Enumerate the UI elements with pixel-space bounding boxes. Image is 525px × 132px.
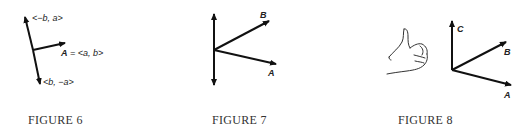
caption-figure-6: FIGURE 6	[28, 113, 83, 127]
figure-6: <−b, a> A = <a, b> <b, −a> FIGURE 6	[25, 13, 103, 127]
label-vector-a-def: = <a, b>	[68, 48, 104, 58]
figure-8: C B A FIGURE 8	[387, 21, 511, 127]
label-a: A	[267, 68, 275, 78]
label-a: A	[503, 90, 511, 100]
perp-down-vector	[33, 50, 40, 84]
label-b: B	[260, 10, 267, 20]
vector-a	[214, 50, 276, 64]
vector-b	[214, 21, 269, 50]
vector-b	[452, 42, 506, 70]
vector-a	[452, 70, 511, 85]
label-vector-a: A = <a, b>	[60, 48, 103, 58]
label-perp-up: <−b, a>	[32, 13, 63, 23]
label-perp-down: <b, −a>	[43, 77, 74, 87]
right-hand-thumbs-up-icon	[387, 29, 427, 74]
label-c: C	[457, 24, 464, 34]
label-b: B	[504, 47, 511, 57]
figure-7: B A FIGURE 7	[212, 10, 276, 127]
figures-canvas: <−b, a> A = <a, b> <b, −a> FIGURE 6 B A …	[0, 0, 525, 132]
label-vector-a-name: A	[60, 48, 68, 58]
caption-figure-7: FIGURE 7	[212, 113, 267, 127]
caption-figure-8: FIGURE 8	[398, 113, 453, 127]
